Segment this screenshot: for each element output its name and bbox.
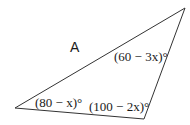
region-label-a: A <box>70 40 79 54</box>
angle-label-top-right: (60 − 3x)° <box>114 50 168 63</box>
triangle-diagram: A (60 − 3x)° (80 − x)° (100 − 2x)° <box>0 0 190 125</box>
angle-label-left: (80 − x)° <box>35 96 82 109</box>
angle-label-bottom: (100 − 2x)° <box>89 100 149 113</box>
